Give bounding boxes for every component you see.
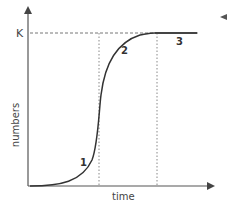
x-axis-label: time	[112, 191, 135, 202]
phase-1-label: 1	[80, 157, 87, 168]
growth-curve	[30, 33, 155, 186]
phase-2-label: 2	[121, 45, 128, 56]
y-axis-label: numbers	[10, 103, 21, 147]
pointer-arrow-icon	[220, 14, 227, 20]
logistic-growth-chart: K numbers time 1 2 3	[0, 0, 229, 208]
k-tick-label: K	[16, 27, 24, 40]
phase-3-label: 3	[176, 36, 183, 47]
